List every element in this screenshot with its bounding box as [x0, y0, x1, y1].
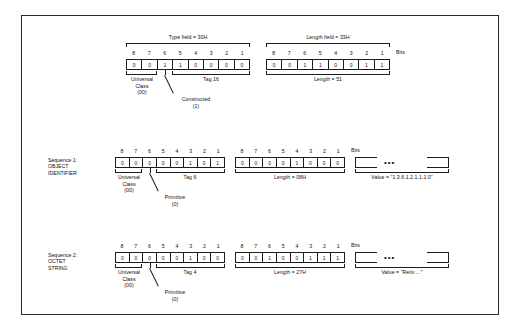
sequence1-value-ellipsis: •••: [384, 157, 395, 168]
sequence2-type-bit-numbers: 87654321: [115, 242, 225, 250]
bit-number-5: 5: [276, 147, 290, 155]
universal-class-bracket-header: [126, 71, 157, 75]
bit-number-1: 1: [331, 147, 345, 155]
bit-cell: 0: [291, 253, 305, 262]
universal-class-label-sequence1: Universal Class (00): [100, 174, 158, 194]
bit-cell: 0: [250, 253, 264, 262]
bit-number-7: 7: [129, 242, 143, 250]
bit-cell: 0: [331, 158, 344, 167]
bit-number-5: 5: [173, 49, 189, 57]
bit-number-2: 2: [318, 147, 332, 155]
sequence1-length-byte: 00001000: [235, 157, 345, 168]
bit-cell: 0: [219, 60, 234, 69]
bit-cell: 1: [331, 253, 344, 262]
bit-cell: 0: [277, 253, 291, 262]
bit-cell: 1: [263, 253, 277, 262]
sequence1-row-label: Sequence 1: OBJECT IDENTIFIER: [48, 157, 108, 176]
length-27h-label: Length = 27H: [235, 269, 345, 276]
bit-number-5: 5: [156, 147, 170, 155]
sequence2-label-line-3: STRING: [48, 265, 108, 271]
bit-number-4: 4: [188, 49, 204, 57]
bit-number-1: 1: [211, 147, 225, 155]
bit-cell: 1: [184, 158, 198, 167]
bit-number-8: 8: [126, 49, 142, 57]
bit-number-6: 6: [143, 147, 157, 155]
primitive-label-sequence2: Primitive (0): [144, 289, 206, 302]
bit-cell: 1: [291, 158, 305, 167]
bit-cell: 1: [375, 60, 389, 69]
bit-number-5: 5: [313, 49, 329, 57]
bit-cell: 1: [173, 60, 188, 69]
bit-number-7: 7: [249, 242, 263, 250]
bit-cell: 0: [116, 253, 130, 262]
bit-number-7: 7: [249, 147, 263, 155]
bit-number-6: 6: [297, 49, 313, 57]
bit-cell: 0: [143, 158, 157, 167]
diagram-frame: Type field = 30H Length field = 33H 8765…: [21, 15, 499, 315]
bit-cell: 0: [236, 253, 250, 262]
bit-number-3: 3: [304, 242, 318, 250]
bits-label-header: Bits: [396, 49, 405, 56]
bit-number-4: 4: [290, 147, 304, 155]
bits-label-sequence1: Bits: [351, 147, 360, 154]
bit-cell: 1: [318, 253, 332, 262]
bit-number-8: 8: [235, 147, 249, 155]
type-field-byte: 00110000: [126, 59, 250, 70]
tag-bracket-header: [172, 71, 250, 75]
bit-number-4: 4: [170, 242, 184, 250]
bit-cell: 1: [211, 158, 224, 167]
length-field-caption: Length field = 33H: [258, 34, 398, 41]
tag-bracket-sequence1: [156, 169, 225, 173]
bit-cell: 0: [211, 253, 224, 262]
bit-cell: 0: [130, 253, 144, 262]
bit-cell: 0: [304, 158, 318, 167]
type-field-bit-numbers: 87654321: [126, 49, 250, 57]
primitive-label-sequence1: Primitive (0): [144, 194, 206, 207]
bit-number-6: 6: [263, 147, 277, 155]
bit-number-8: 8: [235, 242, 249, 250]
sequence2-value-box-right: [427, 252, 449, 263]
s2-primitive-line-2: (0): [144, 296, 206, 303]
bit-cell: 0: [236, 158, 250, 167]
value-bracket-sequence1: [355, 169, 449, 173]
sequence1-type-byte: 00000101: [115, 157, 225, 168]
sequence1-type-bit-numbers: 87654321: [115, 147, 225, 155]
bit-cell: 1: [158, 60, 173, 69]
bit-number-8: 8: [266, 49, 282, 57]
sequence1-label-line-3: IDENTIFIER: [48, 170, 108, 176]
sequence2-value-ellipsis: •••: [384, 252, 395, 263]
sequence2-length-byte: 00100111: [235, 252, 345, 263]
bit-number-3: 3: [344, 49, 360, 57]
bit-number-8: 8: [115, 147, 129, 155]
tag-bracket-sequence2: [156, 264, 225, 268]
sequence2-length-bit-numbers: 87654321: [235, 242, 345, 250]
s1-universal-class-line-3: (00): [100, 187, 158, 194]
bit-number-2: 2: [359, 49, 375, 57]
bit-number-1: 1: [375, 49, 391, 57]
length-field-bit-numbers: 87654321: [266, 49, 390, 57]
tag6-label: Tag 6: [161, 174, 219, 181]
bit-cell: 1: [313, 60, 328, 69]
bit-number-2: 2: [318, 242, 332, 250]
bit-number-8: 8: [115, 242, 129, 250]
bit-cell: 0: [142, 60, 157, 69]
length-value-bracket-header: [266, 71, 390, 75]
value-bracket-sequence2: [355, 264, 449, 268]
bit-cell: 1: [304, 253, 318, 262]
length-08h-label: Length = 08H: [235, 174, 345, 181]
length-51-label: Length = 51: [266, 76, 390, 83]
bit-number-5: 5: [156, 242, 170, 250]
bit-number-7: 7: [282, 49, 298, 57]
bits-label-sequence2: Bits: [351, 242, 360, 249]
s2-universal-class-line-3: (00): [100, 282, 158, 289]
bit-cell: 0: [204, 60, 219, 69]
bit-number-4: 4: [170, 147, 184, 155]
bit-cell: 1: [184, 253, 198, 262]
bit-number-2: 2: [219, 49, 235, 57]
bit-cell: 0: [250, 158, 264, 167]
bit-number-6: 6: [263, 242, 277, 250]
length-bracket-sequence1: [235, 169, 345, 173]
constructed-line-2: (1): [158, 103, 234, 110]
bit-number-6: 6: [143, 242, 157, 250]
bit-number-4: 4: [290, 242, 304, 250]
